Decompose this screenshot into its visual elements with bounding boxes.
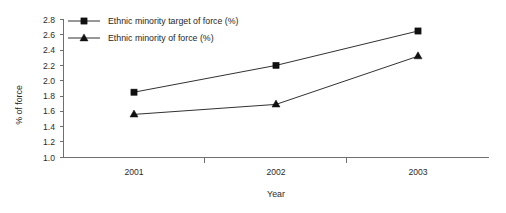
y-tick-label-1-2: 1.2	[43, 137, 55, 147]
x-axis-ticks	[205, 158, 347, 163]
chart-legend: Ethnic minority target of force (%) Ethn…	[68, 16, 239, 43]
x-tick-label-2001: 2001	[124, 167, 143, 177]
y-tick-label-2-8: 2.8	[43, 15, 55, 25]
x-tick-label-2002: 2002	[266, 167, 285, 177]
line-chart: 2.8 2.6 2.4 2.2 2.0 1.8 1.6 1.4 1.2 1.0 …	[0, 0, 506, 213]
y-tick-label-2-0: 2.0	[43, 76, 55, 86]
y-tick-label-1-4: 1.4	[43, 122, 55, 132]
y-tick-label-2-4: 2.4	[43, 45, 55, 55]
triangle-marker	[130, 110, 138, 117]
y-tick-label-2-2: 2.2	[43, 61, 55, 71]
square-marker	[415, 28, 421, 34]
y-axis-title: % of force	[14, 85, 24, 125]
y-axis-ticks	[60, 20, 64, 158]
legend-item-target-of-force: Ethnic minority target of force (%)	[68, 16, 239, 26]
y-tick-label-1-0: 1.0	[43, 153, 55, 163]
square-marker	[81, 18, 87, 24]
y-tick-label-1-8: 1.8	[43, 91, 55, 101]
legend-label-of-force: Ethnic minority of force (%)	[108, 33, 214, 43]
y-tick-label-1-6: 1.6	[43, 106, 55, 116]
legend-item-of-force: Ethnic minority of force (%)	[68, 33, 214, 43]
chart-canvas: 2.8 2.6 2.4 2.2 2.0 1.8 1.6 1.4 1.2 1.0 …	[0, 0, 506, 213]
square-marker	[131, 89, 137, 95]
legend-label-target-of-force: Ethnic minority target of force (%)	[108, 16, 239, 26]
triangle-marker	[80, 34, 88, 41]
y-tick-label-2-6: 2.6	[43, 30, 55, 40]
triangle-marker	[414, 52, 422, 59]
x-tick-label-2003: 2003	[408, 167, 427, 177]
square-marker	[273, 62, 279, 68]
x-axis-title: Year	[267, 189, 285, 199]
